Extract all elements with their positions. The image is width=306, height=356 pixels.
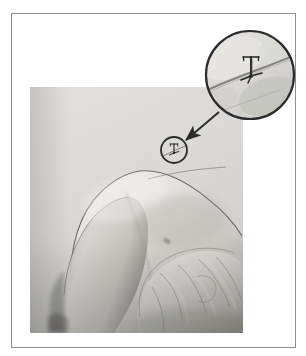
detail-circle-small [159,137,190,163]
magnifier-content [191,28,302,124]
annotation-overlay [0,0,306,356]
magnifier-pointer-arrow [186,112,219,140]
figure-root: Marble statue leg detail with magnified … [0,0,306,356]
magnifier-grain [203,28,299,124]
magnifier-circle-large [191,28,302,124]
